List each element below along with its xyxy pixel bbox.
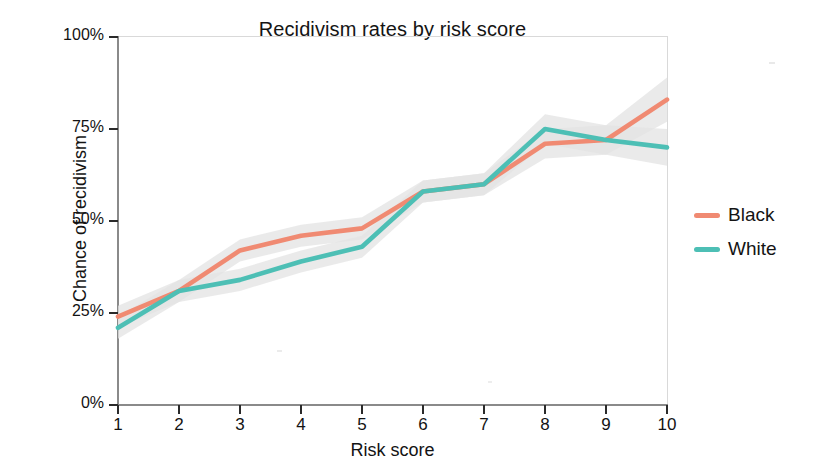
x-tick-mark bbox=[666, 405, 668, 414]
x-tick-mark bbox=[361, 405, 363, 414]
x-tick-label: 9 bbox=[586, 415, 626, 435]
x-tick-label: 5 bbox=[342, 415, 382, 435]
x-axis-label: Risk score bbox=[118, 440, 667, 461]
x-tick-label: 1 bbox=[98, 415, 138, 435]
x-tick-mark bbox=[239, 405, 241, 414]
y-axis-label: Chance of recidivism bbox=[70, 39, 91, 399]
scan-artifact-3 bbox=[488, 381, 492, 383]
x-tick-label: 7 bbox=[464, 415, 504, 435]
y-tick-mark bbox=[109, 220, 118, 222]
chart-figure: Recidivism rates by risk score 100%75%50… bbox=[0, 0, 825, 471]
legend-swatch-icon bbox=[694, 247, 720, 252]
y-tick-mark bbox=[109, 36, 118, 38]
x-tick-mark bbox=[117, 405, 119, 414]
x-tick-label: 4 bbox=[281, 415, 321, 435]
x-tick-label: 6 bbox=[403, 415, 443, 435]
y-tick-mark bbox=[109, 128, 118, 130]
y-tick-mark bbox=[109, 312, 118, 314]
chart-legend: BlackWhite bbox=[694, 198, 814, 266]
x-tick-label: 2 bbox=[159, 415, 199, 435]
x-tick-mark bbox=[605, 405, 607, 414]
legend-item-black[interactable]: Black bbox=[694, 198, 814, 232]
legend-label: Black bbox=[728, 204, 774, 226]
legend-item-white[interactable]: White bbox=[694, 232, 814, 266]
x-tick-mark bbox=[300, 405, 302, 414]
x-tick-label: 8 bbox=[525, 415, 565, 435]
scan-artifact-2 bbox=[277, 350, 282, 352]
x-tick-mark bbox=[483, 405, 485, 414]
x-tick-mark bbox=[422, 405, 424, 414]
y-axis-label-host: Chance of recidivism bbox=[52, 36, 53, 406]
x-tick-label: 3 bbox=[220, 415, 260, 435]
x-tick-mark bbox=[544, 405, 546, 414]
x-tick-label: 10 bbox=[647, 415, 687, 435]
confidence-band bbox=[118, 114, 667, 338]
scan-artifact-1 bbox=[769, 62, 775, 64]
legend-label: White bbox=[728, 238, 777, 260]
x-tick-mark bbox=[178, 405, 180, 414]
legend-swatch-icon bbox=[694, 213, 720, 218]
